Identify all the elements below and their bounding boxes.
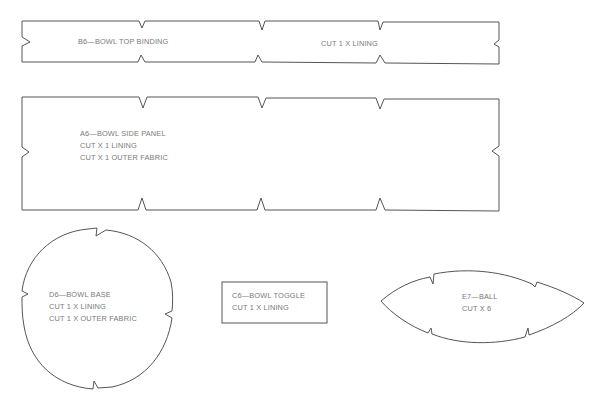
piece-title: B6—BOWL TOP BINDING xyxy=(78,36,168,48)
ball-label: E7—BALL CUT X 6 xyxy=(462,291,498,315)
piece-title: A6—BOWL SIDE PANEL xyxy=(80,128,168,140)
pattern-sheet xyxy=(0,0,605,400)
piece-title: E7—BALL xyxy=(462,291,498,303)
bowl-top-binding-label: B6—BOWL TOP BINDING xyxy=(78,36,168,48)
piece-title: C6—BOWL TOGGLE xyxy=(232,290,305,302)
bowl-base-label: D6—BOWL BASE CUT 1 X LINING CUT 1 X OUTE… xyxy=(49,289,137,325)
cut-instruction: CUT 1 X OUTER FABRIC xyxy=(49,313,137,325)
cut-instruction: CUT X 6 xyxy=(462,303,498,315)
cut-instruction: CUT 1 X LINING xyxy=(321,38,378,50)
cut-instruction: CUT X 1 LINING xyxy=(80,140,168,152)
cut-instruction: CUT 1 X LINING xyxy=(49,301,137,313)
bowl-top-binding-cut-label: CUT 1 X LINING xyxy=(321,38,378,50)
cut-instruction: CUT X 1 OUTER FABRIC xyxy=(80,152,168,164)
piece-title: D6—BOWL BASE xyxy=(49,289,137,301)
cut-instruction: CUT 1 X LINING xyxy=(232,302,305,314)
bowl-side-panel-label: A6—BOWL SIDE PANEL CUT X 1 LINING CUT X … xyxy=(80,128,168,164)
bowl-toggle-label: C6—BOWL TOGGLE CUT 1 X LINING xyxy=(232,290,305,314)
